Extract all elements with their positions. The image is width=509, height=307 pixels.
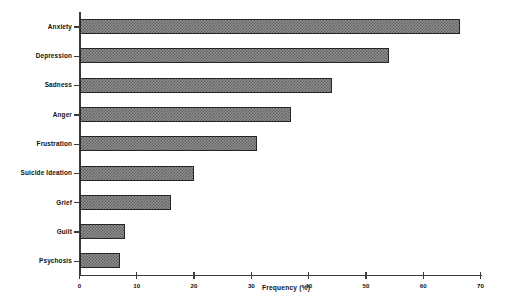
y-tick [74, 56, 81, 57]
y-axis-label-depression: Depression [0, 53, 72, 59]
y-axis-label-sadness: Sadness [0, 82, 72, 88]
x-tick-label-10: 10 [133, 283, 140, 289]
x-tick-label-30: 30 [248, 283, 255, 289]
x-tick-label-20: 20 [191, 283, 198, 289]
x-tick [308, 272, 309, 279]
y-axis-label-guilt: Guilt [0, 229, 72, 235]
y-tick [74, 173, 81, 174]
y-axis-label-suicide-ideation: Suicide Ideation [0, 170, 72, 176]
x-tick [365, 272, 366, 279]
bar-grief [80, 195, 172, 210]
y-tick [74, 202, 81, 203]
bar-sadness [80, 78, 332, 93]
bar-anxiety [80, 19, 461, 34]
x-tick [251, 272, 252, 279]
x-tick [480, 272, 481, 279]
y-tick [74, 85, 81, 86]
x-tick [79, 272, 80, 279]
bar-suicide-ideation [80, 166, 195, 181]
x-tick [136, 272, 137, 279]
y-tick [74, 231, 81, 232]
x-axis-title: Frequency (%) [262, 285, 310, 292]
bar-frustration [80, 136, 258, 151]
x-tick-label-60: 60 [420, 283, 427, 289]
y-tick [74, 114, 81, 115]
bar-guilt [80, 224, 126, 239]
x-tick-label-50: 50 [362, 283, 369, 289]
x-tick-label-70: 70 [477, 283, 484, 289]
x-tick [193, 272, 194, 279]
bar-depression [80, 48, 389, 63]
y-tick [74, 26, 81, 27]
y-axis-label-anger: Anger [0, 112, 72, 118]
y-axis-label-psychosis: Psychosis [0, 258, 72, 264]
y-axis-label-frustration: Frustration [0, 141, 72, 147]
x-tick-label-0: 0 [78, 283, 81, 289]
bar-anger [80, 107, 292, 122]
bar-chart: AnxietyDepressionSadnessAngerFrustration… [0, 0, 509, 307]
y-axis-label-anxiety: Anxiety [0, 24, 72, 30]
y-axis-label-grief: Grief [0, 200, 72, 206]
y-tick [74, 261, 81, 262]
y-tick [74, 144, 81, 145]
x-tick [423, 272, 424, 279]
bar-psychosis [80, 253, 120, 268]
